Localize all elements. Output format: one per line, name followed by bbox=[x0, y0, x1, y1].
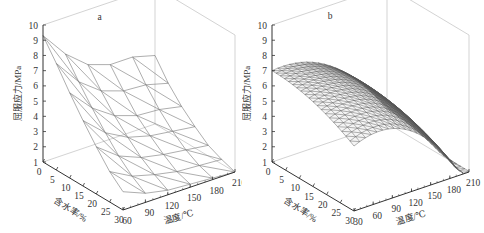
temperature-tick-label: 90 bbox=[145, 208, 155, 218]
moisture-axis-label: 含水率/% bbox=[282, 195, 319, 225]
temperature-tick-label: 120 bbox=[165, 201, 180, 211]
z-tick-label: 8 bbox=[262, 51, 267, 61]
temperature-tick-label: 180 bbox=[447, 185, 462, 195]
z-tick-label: 4 bbox=[33, 112, 38, 122]
temperature-tick-label: 150 bbox=[428, 191, 443, 201]
z-axis-label: 屈服应力/MPa bbox=[242, 66, 252, 122]
moisture-tick bbox=[340, 200, 342, 203]
z-tick-label: 7 bbox=[262, 66, 267, 76]
surface-mesh bbox=[272, 62, 469, 173]
moisture-tick bbox=[83, 183, 85, 186]
temperature-tick-label: 210 bbox=[232, 178, 242, 188]
moisture-tick bbox=[110, 199, 112, 202]
moisture-tick-label: 20 bbox=[88, 199, 98, 209]
top-right-edge bbox=[387, 0, 469, 35]
z-axis-label: 屈服应力/MPa bbox=[12, 66, 23, 122]
moisture-tick-label: 25 bbox=[101, 207, 111, 217]
moisture-tick-label: 5 bbox=[279, 175, 284, 185]
moisture-tick-label: 25 bbox=[332, 208, 342, 218]
z-tick-label: 3 bbox=[33, 127, 38, 137]
z-tick-label: 5 bbox=[262, 97, 267, 107]
floor-back-edge bbox=[43, 124, 155, 162]
moisture-tick-label: 0 bbox=[266, 167, 271, 177]
z-tick-label: 9 bbox=[33, 36, 38, 46]
moisture-tick-label: 10 bbox=[291, 183, 301, 193]
z-tick-label: 5 bbox=[33, 97, 38, 107]
z-tick-label: 8 bbox=[33, 51, 38, 61]
panel-label: a bbox=[97, 12, 102, 22]
moisture-tick-label: 15 bbox=[304, 192, 314, 202]
moisture-tick bbox=[70, 175, 72, 178]
chart-b-yield-stress-surface: 1234567891005101520253030609012015018021… bbox=[242, 0, 484, 233]
temperature-tick-label: 150 bbox=[187, 193, 202, 203]
moisture-tick bbox=[313, 184, 315, 187]
moisture-tick bbox=[96, 191, 98, 194]
z-tick-label: 3 bbox=[262, 127, 267, 137]
moisture-tick-label: 5 bbox=[50, 175, 55, 185]
z-tick-label: 4 bbox=[262, 112, 267, 122]
temperature-tick-label: 210 bbox=[466, 178, 481, 188]
surface-mesh bbox=[43, 36, 235, 194]
z-tick-label: 9 bbox=[262, 36, 267, 46]
moisture-tick-label: 15 bbox=[74, 191, 84, 201]
z-tick-label: 10 bbox=[29, 21, 39, 31]
moisture-axis-label: 含水率/% bbox=[52, 194, 89, 224]
temperature-tick-label: 30 bbox=[353, 217, 363, 227]
z-tick-label: 1 bbox=[262, 158, 267, 168]
chart-a-yield-stress-surface: 123456789100510152025306090120150180210屈… bbox=[0, 0, 242, 233]
z-tick-label: 2 bbox=[33, 142, 38, 152]
z-tick-label: 7 bbox=[33, 66, 38, 76]
z-tick-label: 6 bbox=[262, 81, 267, 91]
temperature-tick-label: 60 bbox=[122, 216, 132, 226]
moisture-tick bbox=[327, 192, 329, 195]
temperature-tick-label: 180 bbox=[209, 186, 224, 196]
moisture-tick-label: 10 bbox=[61, 183, 71, 193]
temperature-tick-label: 120 bbox=[408, 198, 423, 208]
moisture-tick bbox=[56, 167, 58, 170]
moisture-tick-label: 0 bbox=[37, 167, 42, 177]
z-tick-label: 2 bbox=[262, 142, 267, 152]
moisture-tick bbox=[299, 175, 301, 178]
z-tick-label: 1 bbox=[33, 158, 38, 168]
z-tick-label: 6 bbox=[33, 81, 38, 91]
temperature-tick-label: 90 bbox=[392, 204, 402, 214]
moisture-tick bbox=[286, 167, 288, 170]
top-right-edge bbox=[155, 0, 235, 35]
z-tick-label: 10 bbox=[258, 21, 268, 31]
temperature-tick-label: 60 bbox=[372, 211, 382, 221]
panel-label: b bbox=[328, 11, 333, 21]
moisture-tick-label: 20 bbox=[318, 200, 328, 210]
